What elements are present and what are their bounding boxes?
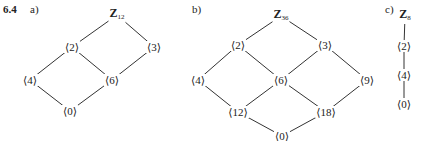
node-c-g2: ⟨2⟩ bbox=[396, 40, 412, 52]
node-c-Z8: Z8 bbox=[398, 8, 412, 24]
node-a-g2: ⟨2⟩ bbox=[64, 41, 80, 53]
node-a-g6: ⟨6⟩ bbox=[104, 74, 120, 86]
node-c-g4: ⟨4⟩ bbox=[396, 69, 412, 81]
node-b-g3: ⟨3⟩ bbox=[317, 39, 333, 51]
node-a-g3: ⟨3⟩ bbox=[146, 41, 162, 53]
node-b-g9: ⟨9⟩ bbox=[359, 74, 375, 86]
node-a-g4: ⟨4⟩ bbox=[22, 74, 38, 86]
node-b-g12: ⟨12⟩ bbox=[227, 106, 249, 118]
lattice-edges bbox=[0, 0, 421, 141]
node-b-g4: ⟨4⟩ bbox=[190, 74, 206, 86]
node-b-g6: ⟨6⟩ bbox=[273, 74, 289, 86]
node-a-g0: ⟨0⟩ bbox=[62, 105, 78, 117]
node-a-Z12: Z12 bbox=[108, 7, 125, 23]
node-b-g18: ⟨18⟩ bbox=[315, 106, 337, 118]
node-c-g0: ⟨0⟩ bbox=[396, 98, 412, 110]
node-b-Z36: Z36 bbox=[272, 8, 289, 24]
node-b-g0: ⟨0⟩ bbox=[274, 130, 290, 141]
node-b-g2: ⟨2⟩ bbox=[230, 39, 246, 51]
